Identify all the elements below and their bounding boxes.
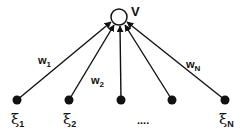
edge-3 xyxy=(120,26,121,100)
input-node-5 xyxy=(221,96,230,105)
weight-label-2: w2 xyxy=(90,74,105,89)
input-label-2: ξ2 xyxy=(63,110,76,129)
input-label-1: ξ1 xyxy=(11,110,24,129)
input-node-1 xyxy=(13,96,22,105)
input-node-4 xyxy=(168,96,177,105)
output-label: V xyxy=(131,4,140,19)
input-node-3 xyxy=(117,96,126,105)
input-nodes xyxy=(13,96,230,105)
weight-label-1: w1 xyxy=(37,54,52,69)
output-node xyxy=(111,9,127,25)
edge-4 xyxy=(125,25,172,100)
edge-5 xyxy=(127,22,225,100)
perceptron-diagram: V w1 w2 wN ξ1 ξ2 .... ξN xyxy=(0,0,246,134)
edge-1 xyxy=(17,22,111,100)
edge-2 xyxy=(69,25,114,100)
ellipsis: .... xyxy=(137,114,149,126)
input-node-2 xyxy=(65,96,74,105)
input-label-n: ξN xyxy=(219,110,234,129)
